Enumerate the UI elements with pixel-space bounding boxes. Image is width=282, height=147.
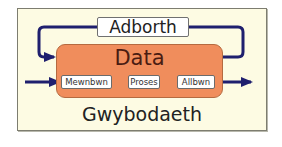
data-box: Data <box>56 44 223 98</box>
step-input: Mewnbwn <box>61 75 112 89</box>
data-title: Data <box>57 46 222 70</box>
step-output: Allbwn <box>177 75 215 89</box>
caption: Gwybodaeth <box>17 102 267 126</box>
step-process: Proses <box>128 75 160 89</box>
feedback-label-box: Adborth <box>97 17 189 37</box>
